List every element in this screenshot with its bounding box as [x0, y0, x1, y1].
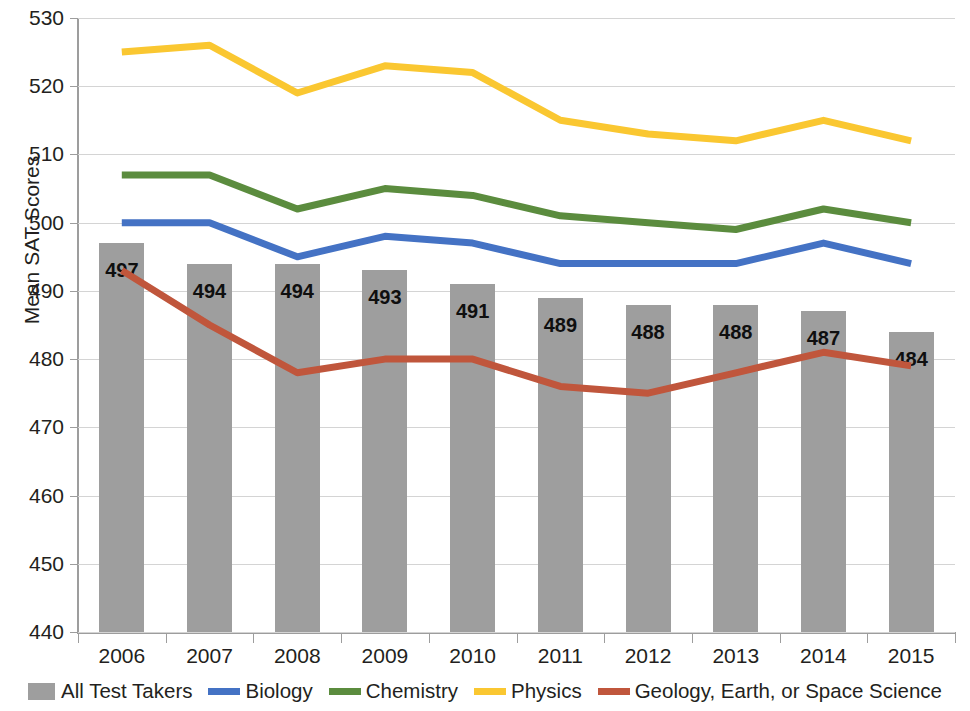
bar-value-label: 497	[82, 260, 162, 280]
bar	[362, 270, 407, 632]
x-tick-mark	[253, 634, 254, 643]
y-axis-line	[77, 18, 79, 634]
gridline	[78, 223, 955, 224]
legend-box-swatch-icon	[28, 683, 55, 700]
bar-value-label: 487	[783, 328, 863, 348]
legend-label: All Test Takers	[61, 681, 192, 702]
x-tick-mark	[780, 634, 781, 643]
bar	[713, 305, 758, 632]
legend-label: Biology	[245, 681, 312, 702]
bar	[450, 284, 495, 632]
line-series	[122, 223, 911, 264]
y-tick-mark	[70, 496, 77, 497]
y-tick-label: 480	[0, 348, 64, 369]
bar	[889, 332, 934, 632]
x-tick-mark	[955, 634, 956, 643]
legend-label: Physics	[511, 681, 582, 702]
y-tick-label: 470	[0, 416, 64, 437]
y-tick-label: 530	[0, 7, 64, 28]
y-tick-label: 490	[0, 280, 64, 301]
line-series	[122, 175, 911, 230]
legend-item[interactable]: Biology	[208, 681, 312, 702]
line-series	[122, 45, 911, 141]
x-tick-mark	[604, 634, 605, 643]
bar	[801, 311, 846, 632]
bar-value-label: 494	[170, 281, 250, 301]
bar-value-label: 494	[257, 281, 337, 301]
bar	[275, 264, 320, 632]
x-tick-mark	[341, 634, 342, 643]
x-tick-mark	[166, 634, 167, 643]
legend-line-swatch-icon	[474, 688, 506, 695]
bar	[99, 243, 144, 632]
bar	[538, 298, 583, 632]
y-tick-label: 460	[0, 485, 64, 506]
y-tick-mark	[70, 427, 77, 428]
legend-item[interactable]: Geology, Earth, or Space Science	[598, 681, 942, 702]
legend-label: Chemistry	[366, 681, 458, 702]
y-tick-mark	[70, 223, 77, 224]
legend-line-swatch-icon	[329, 688, 361, 695]
legend-line-swatch-icon	[208, 688, 240, 695]
legend-line-swatch-icon	[598, 688, 630, 695]
y-tick-mark	[70, 359, 77, 360]
bar-value-label: 489	[520, 315, 600, 335]
legend-item[interactable]: Physics	[474, 681, 582, 702]
y-tick-label: 500	[0, 212, 64, 233]
x-tick-label: 2015	[856, 644, 966, 668]
y-tick-mark	[70, 86, 77, 87]
gridline	[78, 18, 955, 19]
bar	[626, 305, 671, 632]
y-tick-label: 510	[0, 143, 64, 164]
y-tick-mark	[70, 291, 77, 292]
bar-value-label: 484	[871, 349, 951, 369]
y-tick-label: 440	[0, 621, 64, 642]
legend-item[interactable]: Chemistry	[329, 681, 458, 702]
y-tick-mark	[70, 632, 77, 633]
y-tick-label: 450	[0, 553, 64, 574]
bar-value-label: 488	[696, 322, 776, 342]
legend-label: Geology, Earth, or Space Science	[635, 681, 942, 702]
bar-value-label: 493	[345, 287, 425, 307]
bar-value-label: 491	[433, 301, 513, 321]
bar-value-label: 488	[608, 322, 688, 342]
y-tick-mark	[70, 564, 77, 565]
legend: All Test TakersBiologyChemistryPhysicsGe…	[0, 676, 970, 706]
legend-item[interactable]: All Test Takers	[28, 681, 192, 702]
x-tick-mark	[517, 634, 518, 643]
gridline	[78, 154, 955, 155]
y-tick-mark	[70, 154, 77, 155]
x-tick-mark	[867, 634, 868, 643]
x-tick-mark	[692, 634, 693, 643]
x-tick-mark	[78, 634, 79, 643]
bar	[187, 264, 232, 632]
x-tick-mark	[429, 634, 430, 643]
y-tick-mark	[70, 18, 77, 19]
gridline	[78, 632, 955, 633]
y-tick-label: 520	[0, 75, 64, 96]
sat-scores-chart: Mean SAT Scores 530520510500490480470460…	[0, 0, 970, 711]
gridline	[78, 86, 955, 87]
